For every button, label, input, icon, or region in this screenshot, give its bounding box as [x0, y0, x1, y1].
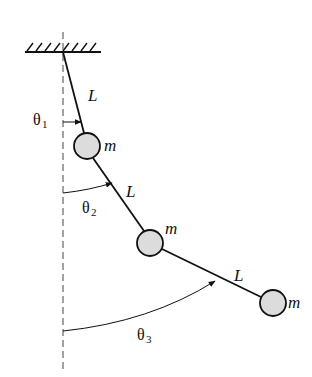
- mass-1: [74, 133, 100, 159]
- angle-label-theta-1: θ 1: [33, 111, 48, 130]
- svg-text:1: 1: [42, 118, 48, 130]
- triple-pendulum-diagram: L L L m m m θ 1 θ 2 θ 3: [0, 0, 312, 377]
- link-label-3: L: [233, 266, 243, 285]
- angle-label-theta-2: θ 2: [82, 199, 97, 218]
- mass-label-3: m: [288, 293, 300, 312]
- mass-label-1: m: [104, 136, 116, 155]
- angle-arc-theta-2: [63, 183, 112, 193]
- svg-text:2: 2: [91, 206, 97, 218]
- mass-label-2: m: [165, 219, 177, 238]
- rod-3: [162, 249, 261, 297]
- svg-text:θ: θ: [82, 199, 90, 216]
- svg-text:θ: θ: [137, 326, 145, 343]
- angle-arc-theta-3: [63, 281, 215, 331]
- rod-1: [63, 52, 84, 133]
- angle-label-theta-3: θ 3: [137, 326, 152, 345]
- svg-text:3: 3: [146, 333, 152, 345]
- link-label-2: L: [125, 182, 135, 201]
- rod-2: [93, 158, 144, 231]
- mass-3: [260, 290, 286, 316]
- svg-text:θ: θ: [33, 111, 41, 128]
- link-label-1: L: [87, 86, 97, 105]
- mass-2: [137, 230, 163, 256]
